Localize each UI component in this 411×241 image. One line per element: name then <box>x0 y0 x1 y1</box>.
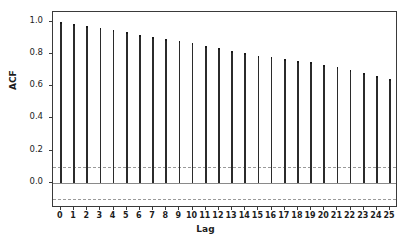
acf-stem <box>126 32 128 183</box>
x-axis-title: Lag <box>0 224 411 234</box>
acf-stem-marker <box>258 56 260 58</box>
acf-stem-marker <box>389 79 391 81</box>
acf-stem <box>179 41 181 183</box>
x-axis-tick-mark <box>336 207 337 210</box>
x-axis-tick-mark <box>60 207 61 210</box>
acf-plot-figure: 1.00.80.60.40.20.0 012345678910111213141… <box>0 0 411 241</box>
x-axis-tick-mark <box>284 207 285 210</box>
acf-stem <box>244 53 246 183</box>
acf-stem <box>86 26 88 183</box>
acf-stem <box>376 76 378 183</box>
x-axis-tick-mark <box>297 207 298 210</box>
y-axis-tick-mark <box>49 85 52 86</box>
x-axis-tick-mark <box>271 207 272 210</box>
acf-stem <box>205 46 207 183</box>
x-axis-tick-mark <box>139 207 140 210</box>
y-axis-tick-label: 0.4 <box>21 112 43 121</box>
acf-stem-marker <box>126 32 128 34</box>
y-axis-tick-mark <box>49 150 52 151</box>
acf-stem-marker <box>192 43 194 45</box>
confidence-band-upper <box>53 167 396 168</box>
acf-stem-marker <box>113 30 115 32</box>
acf-stem-marker <box>218 48 220 50</box>
x-axis-tick-mark <box>126 207 127 210</box>
y-axis-tick-label: 0.8 <box>21 48 43 57</box>
x-axis-tick-mark <box>178 207 179 210</box>
acf-stem-marker <box>139 35 141 37</box>
y-axis-tick-mark <box>49 182 52 183</box>
x-axis-tick-mark <box>257 207 258 210</box>
acf-stem-marker <box>244 53 246 55</box>
acf-stem <box>323 65 325 183</box>
y-axis-tick-label: 1.0 <box>21 16 43 25</box>
x-axis-tick-mark <box>376 207 377 210</box>
acf-stem <box>73 24 75 183</box>
acf-stem <box>231 51 233 183</box>
x-axis-tick-mark <box>244 207 245 210</box>
acf-stem-marker <box>363 73 365 75</box>
x-axis-tick-mark <box>389 207 390 210</box>
acf-stem <box>139 35 141 183</box>
x-axis-tick-mark <box>152 207 153 210</box>
acf-stem-marker <box>271 57 273 59</box>
acf-stem <box>113 30 115 183</box>
plot-frame <box>52 11 397 207</box>
acf-stem-marker <box>86 26 88 28</box>
acf-stem-marker <box>205 46 207 48</box>
plot-area <box>53 12 396 206</box>
acf-stem <box>337 67 339 183</box>
acf-stem-marker <box>310 62 312 64</box>
x-axis-tick-mark <box>99 207 100 210</box>
x-axis-tick-label: 25 <box>381 211 397 220</box>
x-axis-tick-mark <box>310 207 311 210</box>
acf-stem-marker <box>284 59 286 61</box>
acf-stem-marker <box>297 61 299 63</box>
acf-stem-marker <box>165 39 167 41</box>
x-axis-tick-mark <box>350 207 351 210</box>
acf-stem <box>297 61 299 183</box>
acf-stem <box>60 22 62 183</box>
x-axis-tick-mark <box>205 207 206 210</box>
acf-stem-marker <box>100 28 102 30</box>
acf-stem-marker <box>231 51 233 53</box>
acf-stem <box>192 43 194 183</box>
y-axis-tick-label: 0.2 <box>21 145 43 154</box>
x-axis-tick-mark <box>363 207 364 210</box>
acf-stem-marker <box>73 24 75 26</box>
acf-stem <box>350 70 352 183</box>
y-axis-tick-mark <box>49 117 52 118</box>
x-axis-tick-mark <box>323 207 324 210</box>
acf-stem <box>271 57 273 183</box>
acf-stem-marker <box>152 37 154 39</box>
x-axis-tick-mark <box>192 207 193 210</box>
x-axis-tick-mark <box>86 207 87 210</box>
acf-stem <box>389 79 391 183</box>
zero-reference-line <box>53 183 396 184</box>
x-axis-tick-mark <box>73 207 74 210</box>
confidence-band-lower <box>53 199 396 200</box>
acf-stem-marker <box>60 22 62 24</box>
acf-stem-marker <box>179 41 181 43</box>
acf-stem-marker <box>376 76 378 78</box>
y-axis-title: ACF <box>8 70 18 90</box>
acf-stem <box>284 59 286 183</box>
acf-stem <box>258 56 260 183</box>
acf-stem <box>310 62 312 183</box>
acf-stem <box>152 37 154 183</box>
acf-stem-marker <box>337 67 339 69</box>
y-axis-tick-label: 0.0 <box>21 177 43 186</box>
x-axis-tick-mark <box>231 207 232 210</box>
y-axis-tick-mark <box>49 21 52 22</box>
acf-stem-marker <box>323 65 325 67</box>
acf-stem <box>165 39 167 183</box>
x-axis-tick-mark <box>113 207 114 210</box>
acf-stem-marker <box>350 70 352 72</box>
x-axis-tick-mark <box>165 207 166 210</box>
acf-stem <box>218 48 220 183</box>
acf-stem <box>363 73 365 183</box>
y-axis-tick-label: 0.6 <box>21 80 43 89</box>
y-axis-tick-mark <box>49 53 52 54</box>
x-axis-tick-mark <box>218 207 219 210</box>
acf-stem <box>100 28 102 183</box>
